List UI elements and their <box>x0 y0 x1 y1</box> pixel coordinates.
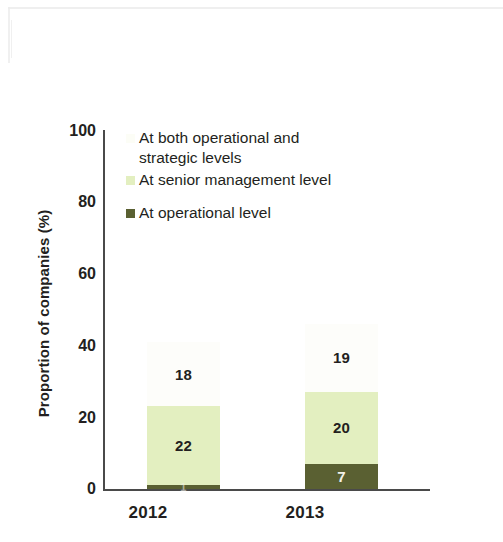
bar-segment-operational-2012[interactable]: 1 <box>147 485 220 489</box>
bar-value-label: 1 <box>180 482 186 493</box>
bar-segment-senior-management-2012[interactable]: 22 <box>147 406 220 485</box>
bar-value-label: 18 <box>175 367 192 382</box>
bar-value-label: 22 <box>175 438 192 453</box>
y-axis-tick-labels: 100 80 60 40 20 0 <box>40 0 96 542</box>
legend-item-senior-management[interactable]: At senior management level <box>126 170 396 190</box>
x-tick-2012: 2012 <box>88 503 208 523</box>
bar-segment-both-levels-2012[interactable]: 18 <box>147 342 220 407</box>
y-tick-80: 80 <box>44 193 96 211</box>
y-tick-40: 40 <box>44 337 96 355</box>
y-tick-20: 20 <box>44 409 96 427</box>
bar-value-label: 19 <box>333 350 350 365</box>
y-tick-60: 60 <box>44 265 96 283</box>
x-axis-line <box>103 489 430 491</box>
bar-segment-operational-2013[interactable]: 7 <box>305 464 378 489</box>
bar-segment-senior-management-2013[interactable]: 20 <box>305 392 378 464</box>
white-swatch-icon <box>126 134 135 143</box>
legend-label-senior-management: At senior management level <box>139 170 331 190</box>
x-tick-2013: 2013 <box>245 503 365 523</box>
scan-artifact-left-2 <box>11 20 12 58</box>
dark-olive-swatch-icon <box>126 209 135 218</box>
legend-label-line2: strategic levels <box>139 149 242 166</box>
bar-value-label: 7 <box>337 469 346 484</box>
legend-label-operational: At operational level <box>139 203 271 223</box>
bar-stack-2013[interactable]: 19 20 7 <box>305 324 378 489</box>
legend-item-operational[interactable]: At operational level <box>126 203 396 223</box>
bar-segment-both-levels-2013[interactable]: 19 <box>305 324 378 392</box>
legend-item-both-levels[interactable]: At both operational andstrategic levels <box>126 128 396 168</box>
bar-value-label: 20 <box>333 420 350 435</box>
y-tick-0: 0 <box>44 480 96 498</box>
light-green-swatch-icon <box>126 176 135 185</box>
chart-page: Proportion of companies (%) 100 80 60 40… <box>0 0 503 542</box>
chart-legend: At both operational andstrategic levels … <box>126 128 396 225</box>
y-tick-100: 100 <box>44 122 96 140</box>
scan-artifact-left <box>8 7 10 63</box>
legend-label-both-levels: At both operational andstrategic levels <box>139 128 299 168</box>
bar-stack-2012[interactable]: 18 22 1 <box>147 342 220 489</box>
legend-label-line1: At both operational and <box>139 129 299 146</box>
